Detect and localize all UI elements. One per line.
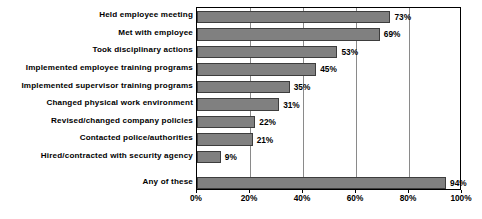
bar-value-label: 45%	[316, 65, 337, 73]
category-label: Implemented supervisor training programs	[0, 82, 193, 90]
bar-value-label: 35%	[290, 83, 311, 91]
bar-row: 21%	[197, 133, 462, 146]
bar-value-label: 9%	[221, 153, 237, 161]
x-tick-label: 0%	[190, 194, 202, 202]
bar-row: 45%	[197, 63, 462, 76]
category-label: Hired/contracted with security agency	[0, 152, 193, 160]
bar-chart: Held employee meetingMet with employeeTo…	[0, 0, 482, 219]
x-tick-label: 80%	[400, 194, 417, 202]
bar	[197, 63, 316, 76]
bar	[197, 133, 253, 146]
category-label: Any of these	[0, 178, 193, 186]
bar-value-label: 73%	[390, 13, 411, 21]
category-label: Revised/changed company policies	[0, 117, 193, 125]
bar	[197, 177, 446, 190]
bar-value-label: 69%	[380, 30, 401, 38]
category-label: Met with employee	[0, 29, 193, 37]
plot-area: 73%69%53%45%35%31%22%21%9%94%	[196, 7, 461, 190]
bar-value-label: 94%	[446, 179, 467, 187]
bar-value-label: 21%	[253, 136, 274, 144]
bar-value-label: 22%	[255, 118, 276, 126]
bar-row: 31%	[197, 98, 462, 111]
bar-row: 9%	[197, 151, 462, 164]
bar-row: 35%	[197, 81, 462, 94]
x-tick-label: 100%	[450, 194, 471, 202]
bar-value-label: 31%	[279, 100, 300, 108]
category-label: Took disciplinary actions	[0, 46, 193, 54]
x-tick-label: 40%	[294, 194, 311, 202]
bar	[197, 28, 380, 41]
bar-row: 94%	[197, 177, 462, 190]
x-axis: 0%20%40%60%80%100%	[196, 190, 461, 210]
x-tick-label: 20%	[241, 194, 258, 202]
x-tick-label: 60%	[347, 194, 364, 202]
bar-row: 69%	[197, 28, 462, 41]
bar	[197, 116, 255, 129]
bar-row: 53%	[197, 46, 462, 59]
category-label: Changed physical work environment	[0, 99, 193, 107]
bar-row: 22%	[197, 116, 462, 129]
bar-row: 73%	[197, 11, 462, 24]
category-label: Implemented employee training programs	[0, 64, 193, 72]
category-label: Held employee meeting	[0, 11, 193, 19]
bar-value-label: 53%	[337, 48, 358, 56]
bar	[197, 81, 290, 94]
category-label: Contacted police/authorities	[0, 134, 193, 142]
category-axis-labels: Held employee meetingMet with employeeTo…	[0, 7, 193, 190]
bar	[197, 46, 337, 59]
bar	[197, 98, 279, 111]
bar	[197, 151, 221, 164]
bar	[197, 11, 390, 24]
